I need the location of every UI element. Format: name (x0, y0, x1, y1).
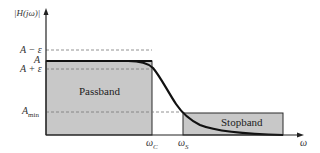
stopband-label: Stopband (221, 117, 263, 128)
label-omega-c: ωC (146, 138, 158, 151)
label-omega-c-main: ω (146, 137, 153, 148)
passband-region (46, 61, 152, 135)
label-omega-s-main: ω (178, 137, 185, 148)
y-axis-label: |H(jω)| (14, 9, 40, 18)
label-a-min: Amin (22, 106, 39, 119)
passband-label: Passband (79, 86, 120, 97)
label-omega-s-sub: S (185, 143, 189, 151)
x-axis-label: ω (300, 138, 307, 148)
diagram-canvas (0, 0, 320, 153)
y-axis-arrow-icon (44, 8, 49, 15)
label-omega-s: ωS (178, 138, 189, 151)
filter-spec-diagram: |H(jω)| ω A − ε A A + ε Amin ωC ωS Passb… (0, 0, 320, 153)
label-a-plus-eps: A + ε (20, 64, 42, 74)
label-a-min-sub: min (28, 111, 39, 119)
label-omega-c-sub: C (153, 143, 158, 151)
